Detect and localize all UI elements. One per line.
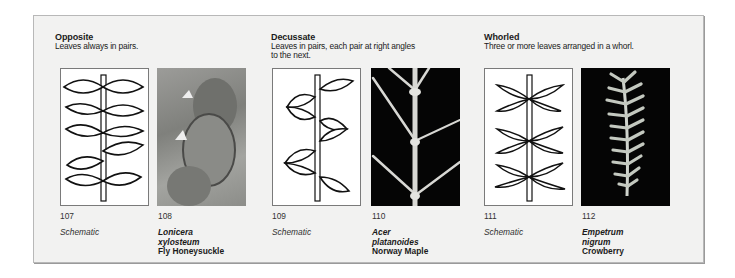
caption-species: Empetrum nigrum Crowberry xyxy=(582,228,624,257)
schematic-decussate xyxy=(272,68,361,206)
leaf-arrangement-figure: Opposite Leaves always in pairs. xyxy=(33,15,704,263)
honeysuckle-photo xyxy=(157,68,246,206)
caption-schematic: Schematic xyxy=(484,228,523,238)
caption-schematic: Schematic xyxy=(272,228,311,238)
figure-number: 107 xyxy=(60,211,74,221)
description-line: to the next. xyxy=(271,51,415,60)
group-description: Leaves always in pairs. xyxy=(55,42,138,51)
figure-number: 112 xyxy=(582,211,595,221)
common-name: Crowberry xyxy=(582,247,624,257)
figure-number: 109 xyxy=(272,211,286,221)
group-description: Leaves in pairs, each pair at right angl… xyxy=(271,42,415,60)
opposite-schematic-drawing xyxy=(61,69,148,205)
maple-photo xyxy=(371,68,460,206)
common-name: Fly Honeysuckle xyxy=(158,247,224,257)
common-name: Norway Maple xyxy=(372,247,428,257)
decussate-schematic-drawing xyxy=(273,69,360,205)
schematic-opposite xyxy=(60,68,149,206)
caption-species: Lonicera xylosteum Fly Honeysuckle xyxy=(158,228,224,257)
photo-acer xyxy=(371,68,460,206)
group-description: Three or more leaves arranged in a whorl… xyxy=(484,42,634,51)
caption-species: Acer platanoides Norway Maple xyxy=(372,228,428,257)
description-line: Three or more leaves arranged in a whorl… xyxy=(484,42,634,51)
schematic-whorled xyxy=(484,68,573,206)
photo-empetrum xyxy=(581,68,670,206)
crowberry-photo xyxy=(581,68,670,206)
figure-number: 111 xyxy=(484,211,497,221)
figure-number: 108 xyxy=(158,211,172,221)
figure-number: 110 xyxy=(372,211,385,221)
photo-lonicera xyxy=(157,68,246,206)
description-line: Leaves always in pairs. xyxy=(55,42,138,51)
caption-schematic: Schematic xyxy=(60,228,99,238)
whorled-schematic-drawing xyxy=(485,69,572,205)
